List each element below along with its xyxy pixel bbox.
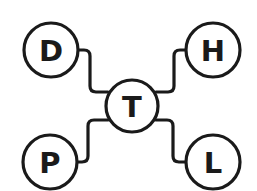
connector-d-t <box>78 50 108 92</box>
node-label: L <box>204 146 222 180</box>
node-label: D <box>39 34 63 68</box>
connector-h-t <box>156 50 186 92</box>
node-label: T <box>122 90 142 124</box>
hub-diagram: D H T P L <box>0 0 257 191</box>
node-label: H <box>201 34 225 68</box>
node-d: D <box>24 23 78 77</box>
node-l: L <box>186 135 240 189</box>
connector-l-t <box>156 120 186 162</box>
node-h: H <box>186 23 240 77</box>
node-p: P <box>23 135 77 189</box>
connector-p-t <box>77 120 108 162</box>
node-t-center: T <box>106 80 158 132</box>
node-label: P <box>39 146 60 180</box>
